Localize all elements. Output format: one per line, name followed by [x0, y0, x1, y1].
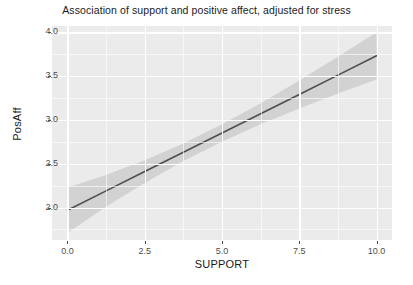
y-tick-label: 2.0: [45, 202, 58, 212]
plot-panel: [52, 26, 392, 240]
gridline: [52, 120, 392, 121]
y-tick-label: 3.0: [45, 114, 58, 124]
y-tick-mark: [48, 76, 51, 77]
y-tick-mark: [48, 208, 51, 209]
x-tick-mark: [145, 241, 146, 244]
x-tick-label: 2.5: [125, 246, 165, 256]
x-tick-label: 5.0: [202, 246, 242, 256]
y-tick-label: 3.5: [45, 70, 58, 80]
gridline: [52, 164, 392, 165]
y-tick-label: 2.5: [45, 158, 58, 168]
x-axis-label: SUPPORT: [52, 258, 392, 270]
y-tick-mark: [48, 32, 51, 33]
chart-title: Association of support and positive affe…: [0, 4, 413, 16]
x-tick-mark: [222, 241, 223, 244]
y-tick-label: 4.0: [45, 26, 58, 36]
x-tick-label: 0.0: [47, 246, 87, 256]
x-tick-mark: [299, 241, 300, 244]
x-tick-label: 7.5: [279, 246, 319, 256]
y-tick-mark: [48, 164, 51, 165]
gridline: [52, 208, 392, 209]
x-tick-mark: [377, 241, 378, 244]
x-tick-label: 10.0: [357, 246, 397, 256]
y-axis-label: PosAff: [11, 94, 23, 154]
cropped-caption-sliver: [0, 278, 413, 285]
chart-figure: Association of support and positive affe…: [0, 0, 413, 285]
gridline: [52, 32, 392, 33]
gridline: [52, 76, 392, 77]
y-tick-mark: [48, 120, 51, 121]
x-tick-mark: [67, 241, 68, 244]
